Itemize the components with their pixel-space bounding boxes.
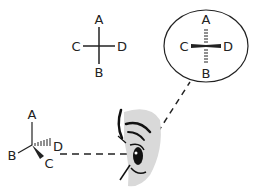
wedge-dash-structure: A B C D — [8, 107, 63, 171]
magnified-label-left: C — [179, 39, 188, 54]
fischer-projection: A C D B — [71, 12, 127, 80]
wedge-bond-to-C — [32, 145, 44, 159]
structure-label-wedge: C — [44, 156, 53, 171]
structure-label-top: A — [28, 107, 37, 122]
eye-iris — [133, 147, 143, 165]
fischer-label-left: C — [71, 39, 80, 54]
hashed-bond-to-D — [35, 138, 50, 146]
magnified-label-top: A — [202, 12, 211, 27]
fischer-label-right: D — [117, 39, 127, 54]
magnified-label-right: D — [223, 39, 233, 54]
eye-brow-outer — [119, 110, 122, 138]
structure-label-left: B — [8, 148, 17, 163]
structure-label-dash: D — [53, 139, 63, 154]
eye-highlight — [135, 152, 138, 155]
eye-icon — [118, 109, 161, 186]
stereochemistry-diagram: A C D B A C D B — [0, 0, 263, 191]
sight-line-to-bubble — [158, 82, 190, 132]
fischer-label-top: A — [95, 12, 104, 27]
magnified-label-bottom: B — [202, 66, 211, 81]
bond-to-B — [18, 145, 32, 153]
magnified-view: A C D B — [164, 10, 248, 82]
fischer-label-bottom: B — [95, 65, 104, 80]
